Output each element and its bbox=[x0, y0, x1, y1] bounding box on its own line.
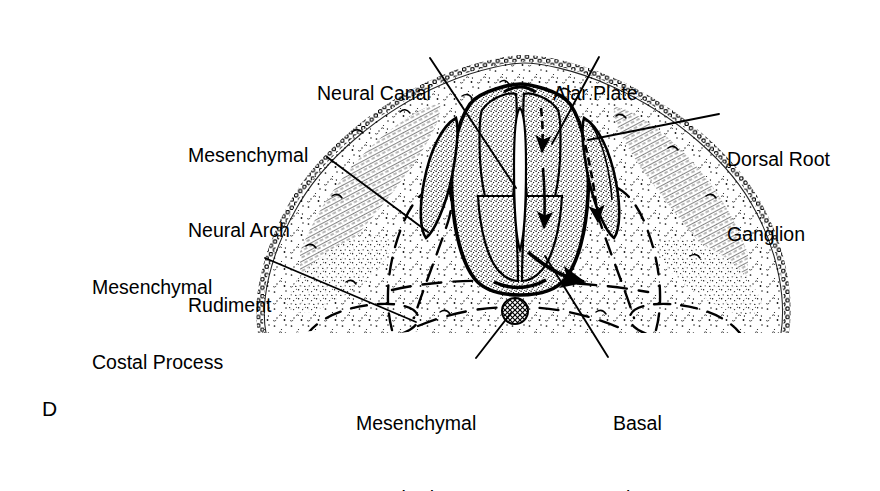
label-line: Vertebral bbox=[356, 486, 476, 491]
label-line: Costal Process bbox=[92, 350, 223, 375]
label-basal-plate: Basal Plate bbox=[613, 361, 662, 491]
label-line: Basal bbox=[613, 411, 662, 436]
label-line: Plate bbox=[613, 486, 662, 491]
label-mesenchymal-vertebral-centrum: Mesenchymal Vertebral Centrum bbox=[356, 361, 476, 491]
label-mesenchymal-costal-process: Mesenchymal Costal Process bbox=[92, 225, 223, 425]
label-line: Ganglion bbox=[727, 222, 830, 247]
label-line: Mesenchymal bbox=[356, 411, 476, 436]
label-line: Dorsal Root bbox=[727, 147, 830, 172]
figure-canvas: Neural Canal Alar Plate Dorsal Root Gang… bbox=[0, 0, 880, 491]
label-neural-canal: Neural Canal bbox=[317, 31, 431, 156]
label-line: Alar Plate bbox=[553, 81, 638, 106]
label-line: Mesenchymal bbox=[92, 275, 223, 300]
label-line: Neural Canal bbox=[317, 81, 431, 106]
cut-margin-mask bbox=[250, 331, 800, 360]
label-line: Mesenchymal bbox=[188, 143, 308, 168]
label-dorsal-root-ganglion: Dorsal Root Ganglion bbox=[727, 97, 830, 297]
label-alar-plate: Alar Plate bbox=[553, 31, 638, 156]
neural-canal-lumen bbox=[514, 108, 526, 250]
panel-letter: D bbox=[42, 397, 57, 421]
